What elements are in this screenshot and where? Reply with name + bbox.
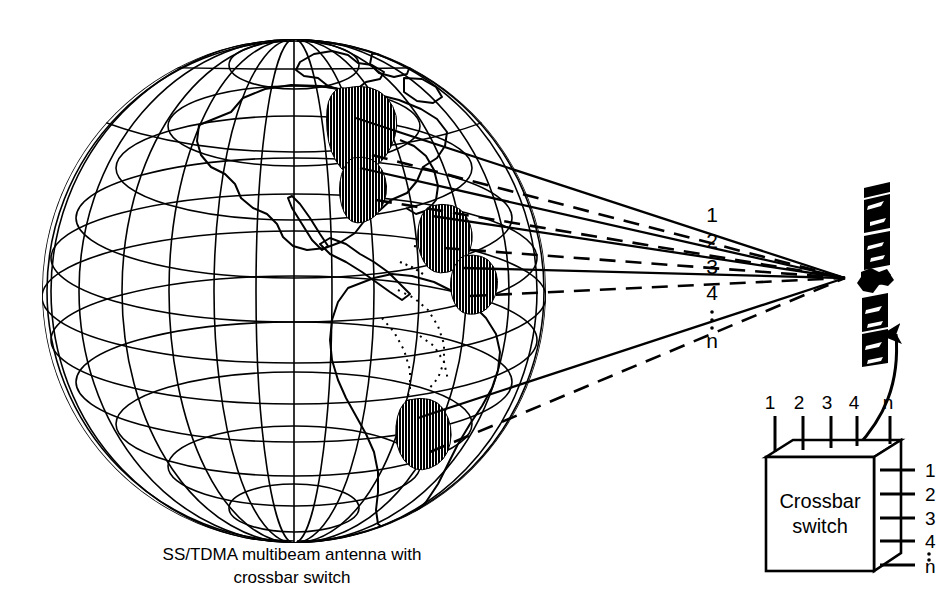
figure-caption: SS/TDMA multibeam antenna with crossbar … xyxy=(163,545,422,587)
diagram-canvas: 1 2 3 4 n xyxy=(0,0,947,615)
crossbar-right-face xyxy=(874,440,901,571)
beam-label-1: 1 xyxy=(706,203,718,226)
crossbar-input-label-1: 1 xyxy=(765,392,776,413)
crossbar-title-line-1: Crossbar xyxy=(779,490,860,512)
crossbar-output-labels: 1 2 3 4 n xyxy=(925,460,936,577)
crossbar-output-label-1: 1 xyxy=(925,460,936,481)
crossbar-output-label-3: 3 xyxy=(925,508,936,529)
crossbar-output-label-2: 2 xyxy=(925,484,936,505)
satellite-solar-array-lower xyxy=(862,293,888,367)
crossbar-input-label-n: n xyxy=(883,392,894,413)
crossbar-output-label-n: n xyxy=(925,556,936,577)
caption-line-1: SS/TDMA multibeam antenna with xyxy=(163,545,422,564)
beam-label-4: 4 xyxy=(706,281,718,304)
crossbar-output-label-4: 4 xyxy=(925,531,936,552)
crossbar-title-line-2: switch xyxy=(792,515,848,537)
figure-ss-tdma-multibeam-antenna: 1 2 3 4 n xyxy=(0,0,947,615)
globe-graticule xyxy=(42,39,546,543)
beam-label-2: 2 xyxy=(706,229,718,252)
crossbar-input-label-2: 2 xyxy=(794,392,805,413)
satellite-solar-array-upper xyxy=(864,182,890,270)
beam-label-ellipsis xyxy=(710,310,714,330)
earth-globe xyxy=(42,39,546,543)
satellite xyxy=(857,182,894,367)
satellite-body xyxy=(857,268,894,293)
crossbar-input-labels: 1 2 3 4 n xyxy=(765,392,894,413)
beam-label-3: 3 xyxy=(706,255,718,278)
crossbar-switch: 1 2 3 4 n 1 2 3 4 n Crossbar switc xyxy=(765,392,936,577)
beam-label-n: n xyxy=(706,329,718,352)
beam-footprint-4 xyxy=(451,255,498,314)
crossbar-front-face xyxy=(766,457,874,571)
crossbar-input-label-3: 3 xyxy=(822,392,833,413)
caption-line-2: crossbar switch xyxy=(233,568,350,587)
beam-labels: 1 2 3 4 n xyxy=(706,203,718,352)
crossbar-input-label-4: 4 xyxy=(849,392,860,413)
